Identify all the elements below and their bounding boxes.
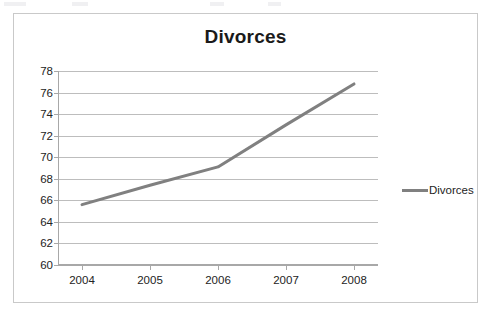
x-axis-tick-label: 2004 (69, 274, 95, 286)
x-axis-tick-mark (286, 265, 287, 270)
y-axis-tick-mark (54, 265, 58, 266)
y-axis-tick-label: 74 (40, 108, 53, 120)
y-axis-tick-label: 66 (40, 194, 53, 206)
x-axis-tick-label: 2008 (341, 274, 367, 286)
y-axis-tick-label: 62 (40, 237, 53, 249)
y-axis-tick-label: 60 (40, 259, 53, 271)
chart-container: Divorces 60626466687072747678 2004200520… (13, 13, 478, 303)
legend-line-swatch (402, 189, 428, 192)
x-axis-tick-mark (354, 265, 355, 270)
data-series-line (58, 71, 378, 265)
chart-title: Divorces (14, 26, 477, 48)
x-axis-tick-label: 2005 (137, 274, 163, 286)
y-axis-tick-label: 70 (40, 151, 53, 163)
y-axis-tick-label: 78 (40, 65, 53, 77)
legend-item-label: Divorces (429, 184, 474, 196)
x-axis-tick-mark (82, 265, 83, 270)
x-axis-tick-label: 2006 (205, 274, 231, 286)
y-axis-tick-label: 76 (40, 87, 53, 99)
x-axis-tick-mark (150, 265, 151, 270)
scan-artifact (0, 0, 493, 12)
x-axis-tick-label: 2007 (273, 274, 299, 286)
x-axis-tick-mark (218, 265, 219, 270)
y-axis-tick-label: 64 (40, 216, 53, 228)
y-axis-tick-label: 72 (40, 130, 53, 142)
y-axis-tick-label: 68 (40, 173, 53, 185)
plot-area: 60626466687072747678 2004200520062007200… (58, 71, 378, 265)
chart-legend: Divorces (402, 184, 474, 196)
